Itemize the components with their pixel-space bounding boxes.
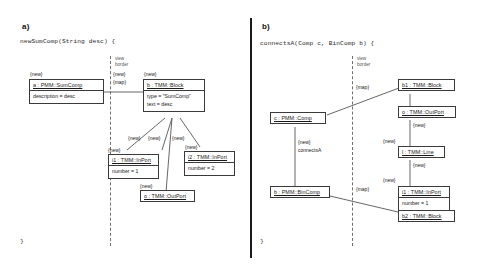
object-box-i2-inport[interactable]: i2 : TMM::InPort number = 2 bbox=[184, 151, 235, 176]
annotation-new-fan-1: {new} bbox=[128, 135, 141, 142]
object-attr: description = desc bbox=[33, 93, 100, 101]
annotation-new-sumcomp: {new} bbox=[30, 71, 43, 78]
object-box-i1-inport[interactable]: i1 : TMM::InPort number = 1 bbox=[108, 154, 159, 179]
object-title-b-block: b : TMM::Block bbox=[144, 80, 204, 91]
annotation-map-bottom: {map} bbox=[356, 186, 369, 193]
annotation-new-inport-b: {new} bbox=[383, 177, 396, 184]
object-attrs-i1-inport: number = 1 bbox=[109, 166, 158, 178]
object-title-i1-inport: i1 : TMM::InPort bbox=[109, 155, 158, 166]
panel-b: b) connectsA(Comp c, BinComp b) { view b… bbox=[252, 0, 479, 275]
annotation-new-fan-2: {new} bbox=[148, 135, 161, 142]
object-box-o-outport-b[interactable]: o : TMM::OutPort bbox=[398, 106, 456, 118]
annotation-new-border: {new} bbox=[113, 71, 126, 78]
annotation-map-border: {map} bbox=[113, 79, 126, 86]
annotation-connectsa-label: connectsA bbox=[298, 147, 321, 154]
object-title-a-sumcomp: a : PMM::SumComp bbox=[30, 80, 103, 91]
object-attrs-b-block: type = "SumComp" text = desc bbox=[144, 91, 204, 111]
annotation-new-outport-b: {new} bbox=[413, 122, 426, 129]
annotation-new-fan-3: {new} bbox=[172, 135, 185, 142]
annotation-new-inport1: {new} bbox=[108, 147, 121, 154]
object-attrs-a-sumcomp: description = desc bbox=[30, 91, 103, 103]
annotation-new-line-lower: {new} bbox=[413, 162, 426, 169]
object-box-i1-inport-b[interactable]: i1 : TMM::InPort number = 1 bbox=[398, 186, 450, 211]
annotation-new-connectsa: {new} bbox=[298, 139, 311, 146]
annotation-new-inport2: {new} bbox=[185, 144, 198, 151]
object-title-b2-block: b2 : TMM::Block bbox=[399, 211, 454, 221]
object-attrs-i2-inport: number = 2 bbox=[185, 163, 234, 175]
annotation-new-outport: {new} bbox=[140, 183, 153, 190]
annotation-new-block: {new} bbox=[144, 71, 157, 78]
panel-b-edges bbox=[252, 0, 479, 275]
object-title-c-comp: c : PMM::Comp bbox=[271, 113, 325, 123]
object-box-b2-block[interactable]: b2 : TMM::Block bbox=[398, 210, 455, 222]
object-title-o-outport-b: o : TMM::OutPort bbox=[399, 107, 455, 117]
annotation-map-top: {map} bbox=[356, 84, 369, 91]
object-title-b-bincomp: b : PMM::BinComp bbox=[271, 187, 329, 197]
object-title-b1-block: b1 : TMM::Block bbox=[399, 80, 454, 90]
object-title-l-line: l : TMM::Line bbox=[399, 147, 444, 157]
object-attr: type = "SumComp" bbox=[147, 93, 201, 101]
object-box-c-comp[interactable]: c : PMM::Comp bbox=[270, 112, 326, 124]
object-attr: text = desc bbox=[147, 101, 201, 109]
object-box-l-line[interactable]: l : TMM::Line bbox=[398, 146, 445, 158]
object-box-b-block[interactable]: b : TMM::Block type = "SumComp" text = d… bbox=[143, 79, 205, 112]
object-title-o-outport: o : TMM::OutPort bbox=[141, 191, 194, 201]
object-box-a-sumcomp[interactable]: a : PMM::SumComp description = desc bbox=[29, 79, 104, 104]
panel-a: a) newSumComp(String desc) { view border… bbox=[0, 0, 252, 275]
panel-a-edges bbox=[0, 0, 252, 275]
object-box-o-outport[interactable]: o : TMM::OutPort bbox=[140, 190, 195, 202]
object-attr: number = 1 bbox=[112, 168, 155, 176]
object-attrs-i1-inport-b: number = 1 bbox=[399, 198, 449, 210]
object-box-b1-block[interactable]: b1 : TMM::Block bbox=[398, 79, 455, 91]
object-attr: number = 2 bbox=[188, 165, 231, 173]
object-box-b-bincomp[interactable]: b : PMM::BinComp bbox=[270, 186, 330, 198]
object-title-i1-inport-b: i1 : TMM::InPort bbox=[399, 187, 449, 198]
object-title-i2-inport: i2 : TMM::InPort bbox=[185, 152, 234, 163]
object-attr: number = 1 bbox=[402, 200, 446, 208]
annotation-new-line-upper: {new} bbox=[383, 138, 396, 145]
diagram-figure: a) newSumComp(String desc) { view border… bbox=[0, 0, 479, 275]
